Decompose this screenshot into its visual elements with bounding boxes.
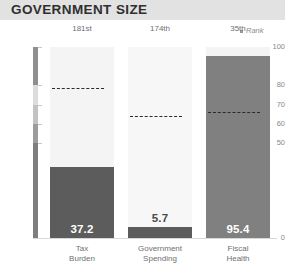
axis-segment — [33, 143, 38, 238]
category-label-government-spending: Government Spending — [124, 244, 196, 263]
bar-track-tax-burden: 37.2 — [50, 47, 114, 238]
y-tick-mark — [38, 105, 42, 106]
axis-segment — [33, 85, 38, 105]
y-tick-mark — [38, 124, 42, 125]
chart-plot-area: Rank 100 80 70 60 50 0 181st 37.2 Tax Bu… — [0, 20, 285, 277]
category-label-line: Spending — [124, 254, 196, 264]
axis-segment — [33, 124, 38, 143]
average-line-government-spending — [130, 116, 182, 117]
category-label-fiscal-health: Fiscal Health — [202, 244, 274, 263]
category-label-tax-burden: Tax Burden — [46, 244, 118, 263]
average-line-tax-burden — [52, 88, 104, 89]
page-title: GOVERNMENT SIZE — [11, 2, 148, 17]
axis-segment — [33, 105, 38, 124]
rank-label-government-spending: 174th — [122, 24, 198, 33]
category-label-line: Health — [202, 254, 274, 264]
rank-label-tax-burden: 181st — [44, 24, 120, 33]
average-line-fiscal-health — [208, 112, 260, 113]
category-label-line: Fiscal — [202, 244, 274, 254]
chart-title-bar: GOVERNMENT SIZE — [0, 0, 285, 20]
x-axis-baseline — [33, 238, 277, 239]
y-tick-mark — [38, 47, 42, 48]
y-tick-mark — [38, 85, 42, 86]
category-label-line: Government — [124, 244, 196, 254]
rank-label-fiscal-health: 35th — [200, 24, 276, 33]
bar-track-government-spending: 5.7 — [128, 47, 192, 238]
bar-value-government-spending: 5.7 — [128, 212, 192, 224]
axis-segment — [33, 47, 38, 85]
bar-tax-burden[interactable]: 37.2 — [50, 167, 114, 238]
bar-value-tax-burden: 37.2 — [50, 223, 114, 235]
y-tick-mark — [38, 143, 42, 144]
category-label-line: Burden — [46, 254, 118, 264]
category-label-line: Tax — [46, 244, 118, 254]
bar-government-spending[interactable] — [128, 227, 192, 238]
bar-value-fiscal-health: 95.4 — [206, 223, 270, 235]
bar-track-fiscal-health: 95.4 — [206, 47, 270, 238]
bar-fiscal-health[interactable]: 95.4 — [206, 56, 270, 238]
